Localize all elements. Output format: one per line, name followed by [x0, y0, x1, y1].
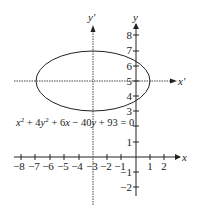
- svg-text:−7: −7: [28, 160, 40, 172]
- svg-text:−6: −6: [42, 160, 54, 172]
- svg-text:−2: −2: [100, 160, 112, 172]
- svg-text:−4: −4: [71, 160, 83, 172]
- y-prime-label: y′: [87, 11, 96, 23]
- y-prime-arrow-icon: [91, 25, 96, 32]
- svg-text:6: 6: [127, 60, 133, 72]
- svg-text:−8: −8: [13, 160, 25, 172]
- x-prime-arrow-icon: [170, 79, 177, 84]
- svg-text:3: 3: [127, 105, 133, 117]
- x-axis-label: x: [181, 151, 187, 163]
- svg-text:2: 2: [161, 160, 167, 172]
- svg-text:1: 1: [147, 160, 153, 172]
- svg-text:4: 4: [127, 90, 133, 102]
- svg-text:5: 5: [127, 75, 133, 87]
- x-prime-label: x′: [177, 75, 186, 87]
- y-axis-label: y: [132, 11, 138, 23]
- x-tick-labels: −8 −7 −6 −5 −4 −3 −2 −1 1 2: [13, 160, 167, 172]
- svg-text:−1: −1: [120, 166, 132, 178]
- equation-label: x2 + 4y2 + 6x − 40y + 93 = 0: [15, 116, 134, 128]
- coordinate-plane: −8 −7 −6 −5 −4 −3 −2 −1 1 2 8 7 6 5 4 3 …: [0, 0, 199, 209]
- y-tick-labels: 8 7 6 5 4 3 1 −1 −2: [120, 29, 132, 193]
- svg-text:7: 7: [127, 44, 133, 56]
- svg-text:−5: −5: [57, 160, 69, 172]
- svg-text:1: 1: [127, 136, 133, 148]
- svg-text:−3: −3: [86, 160, 98, 172]
- svg-text:−2: −2: [120, 181, 132, 193]
- svg-text:8: 8: [127, 29, 133, 41]
